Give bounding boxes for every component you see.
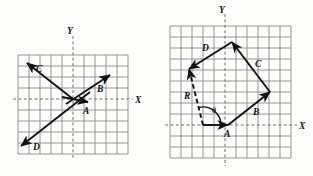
right-panel: Y X A B C D <box>165 5 306 166</box>
vector-label-c-right: C <box>255 59 262 69</box>
vector-label-d-right: D <box>201 43 209 53</box>
vector-label-a-left: A <box>82 106 89 116</box>
vector-label-b-left: B <box>96 84 103 94</box>
vector-b-right <box>228 92 270 125</box>
x-axis-label-right: X <box>298 121 306 131</box>
angle-label-theta: θ <box>212 106 216 115</box>
y-axis-label-right: Y <box>219 5 226 15</box>
vector-c-right <box>232 42 270 92</box>
figure-canvas: Y X C D B A <box>0 0 313 176</box>
left-panel: Y X C D B A <box>13 26 142 160</box>
vector-r-right <box>189 69 203 125</box>
vector-label-d-left: D <box>32 142 40 152</box>
vector-d-right <box>189 42 232 69</box>
vector-label-r-right: R <box>183 91 190 101</box>
vector-c-left <box>27 63 73 99</box>
y-axis-label-left: Y <box>67 26 74 36</box>
vector-label-b-right: B <box>252 107 259 117</box>
vector-label-c-left: C <box>36 64 43 74</box>
vector-figure: Y X C D B A <box>0 0 313 176</box>
vector-label-a-right: A <box>223 129 230 139</box>
x-axis-label-left: X <box>134 95 142 105</box>
